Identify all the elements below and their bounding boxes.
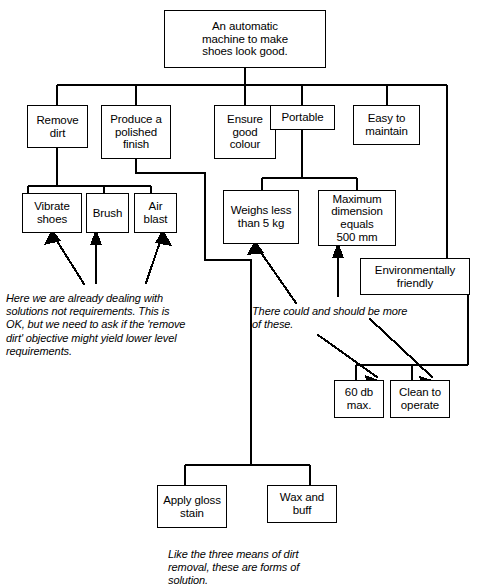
annotation-solutions-not-requirements: Here we are already dealing with solutio… — [6, 292, 206, 358]
node-maximum-dimension[interactable]: Maximum dimension equals 500 mm — [318, 190, 396, 246]
requirements-tree-diagram: An automatic machine to make shoes look … — [0, 0, 486, 586]
node-portable[interactable]: Portable — [270, 105, 335, 130]
node-remove-dirt[interactable]: Remove dirt — [27, 105, 88, 148]
node-60db-max[interactable]: 60 db max. — [334, 380, 384, 418]
annotation-could-be-more: There could and should be more of these. — [252, 305, 447, 331]
node-brush[interactable]: Brush — [86, 193, 129, 233]
node-environmentally-friendly[interactable]: Environmentally friendly — [360, 258, 470, 295]
node-ensure-good-colour[interactable]: Ensure good colour — [214, 105, 276, 159]
node-apply-gloss-stain[interactable]: Apply gloss stain — [157, 485, 227, 528]
node-weighs-less-than-5kg[interactable]: Weighs less than 5 kg — [223, 190, 299, 244]
node-produce-polished-finish[interactable]: Produce a polished finish — [101, 105, 171, 159]
annotation-forms-of-solution: Like the three means of dirt removal, th… — [168, 548, 368, 586]
node-wax-and-buff[interactable]: Wax and buff — [267, 485, 337, 523]
node-clean-to-operate[interactable]: Clean to operate — [390, 380, 450, 418]
node-air-blast[interactable]: Air blast — [134, 193, 177, 233]
node-root[interactable]: An automatic machine to make shoes look … — [164, 10, 326, 68]
node-vibrate-shoes[interactable]: Vibrate shoes — [22, 193, 82, 233]
node-easy-to-maintain[interactable]: Easy to maintain — [353, 105, 420, 145]
